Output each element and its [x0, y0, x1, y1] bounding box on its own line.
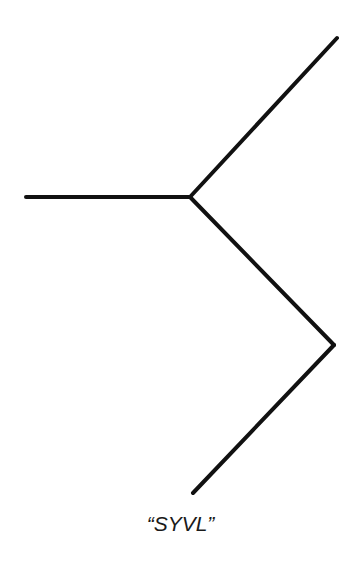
bond-bottom	[193, 345, 334, 493]
bond-lower-right	[190, 197, 334, 345]
figure-caption: “SYVL”	[0, 512, 361, 536]
skeletal-structure-diagram	[0, 0, 361, 571]
bond-upper-right	[190, 38, 337, 197]
